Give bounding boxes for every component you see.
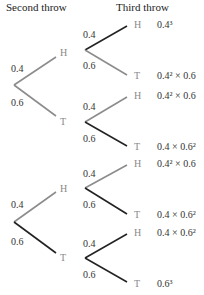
prob-label: 0.4: [11, 199, 24, 210]
prob-label: 0.6: [83, 269, 96, 280]
tree-2: 0.4 0.6 H T 0.4 0.6 H T 0.4² × 0.6 0.4 ×…: [11, 158, 196, 289]
outcome-probability: 0.4 × 0.6²: [157, 141, 196, 152]
leaf-h: H: [134, 227, 141, 238]
prob-label: 0.6: [83, 60, 96, 71]
tree-diagram: Second throw Third throw 0.4 0.6 H T 0.4…: [0, 0, 204, 295]
header-third-throw: Third throw: [116, 1, 169, 13]
node-t: T: [60, 252, 66, 263]
prob-label: 0.6: [11, 236, 24, 247]
prob-label: 0.6: [83, 199, 96, 210]
leaf-t: T: [134, 278, 140, 289]
outcome-probability: 0.4 × 0.6²: [157, 227, 196, 238]
outcome-probability: 0.4² × 0.6: [157, 90, 196, 101]
outcome-probability: 0.4 × 0.6²: [157, 209, 196, 220]
tree-1: 0.4 0.6 H T 0.4 0.6 H T 0.4³ 0.4² × 0.6 …: [11, 19, 196, 152]
outcome-probability: 0.4² × 0.6: [157, 158, 196, 169]
leaf-h: H: [134, 90, 141, 101]
node-h: H: [60, 47, 67, 58]
outcome-probability: 0.6³: [157, 278, 173, 289]
prob-label: 0.4: [83, 238, 96, 249]
leaf-h: H: [134, 158, 141, 169]
prob-label: 0.4: [83, 101, 96, 112]
header-second-throw: Second throw: [6, 1, 67, 13]
node-t: T: [60, 116, 66, 127]
leaf-h: H: [134, 19, 141, 30]
prob-label: 0.4: [83, 29, 96, 40]
prob-label: 0.6: [11, 97, 24, 108]
leaf-t: T: [134, 141, 140, 152]
node-h: H: [60, 183, 67, 194]
prob-label: 0.4: [83, 168, 96, 179]
outcome-probability: 0.4³: [157, 19, 173, 30]
leaf-t: T: [134, 70, 140, 81]
leaf-t: T: [134, 209, 140, 220]
prob-label: 0.6: [83, 133, 96, 144]
prob-label: 0.4: [11, 63, 24, 74]
outcome-probability: 0.4² × 0.6: [157, 70, 196, 81]
